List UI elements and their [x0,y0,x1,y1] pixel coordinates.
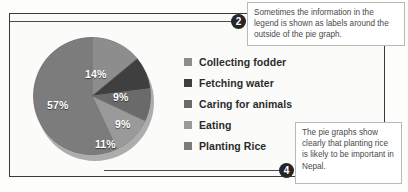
slice-label-caring-for-animals: 9% [115,118,130,130]
legend-item-label: Caring for animals [199,98,292,110]
callout-annotation-2: Sometimes the information in the legend … [247,2,405,46]
callout-4-leader-line [104,170,281,171]
legend-swatch-icon [184,58,192,66]
figure-root: 14% 9% 9% 11% 57% Collecting fodder Fetc… [0,0,408,192]
pie-svg [33,37,151,155]
legend-item-collecting-fodder[interactable]: Collecting fodder [184,51,292,72]
slice-label-eating: 11% [95,138,116,150]
legend-item-label: Planting Rice [199,140,266,152]
legend-item-label: Fetching water [199,77,274,89]
slice-label-planting-rice: 57% [47,99,68,111]
pie-chart: 14% 9% 9% 11% 57% [33,37,154,163]
slice-label-collecting-fodder: 14% [85,68,106,80]
callout-badge-2: 2 [231,14,246,29]
legend-item-eating[interactable]: Eating [184,114,292,135]
legend-swatch-icon [184,79,192,87]
callout-2-leader-line [9,21,233,22]
slice-label-fetching-water: 9% [113,91,128,103]
legend-item-planting-rice[interactable]: Planting Rice [184,135,292,156]
pie-body [33,37,151,155]
callout-annotation-4: The pie graphs show clearly that plantin… [295,122,402,184]
callout-badge-4: 4 [279,163,294,178]
legend-swatch-icon [184,121,192,129]
legend-item-label: Eating [199,119,231,131]
legend-item-caring-for-animals[interactable]: Caring for animals [184,93,292,114]
legend-swatch-icon [184,100,192,108]
legend-swatch-icon [184,142,192,150]
legend-item-label: Collecting fodder [199,56,286,68]
legend-item-fetching-water[interactable]: Fetching water [184,72,292,93]
callout-text: Sometimes the information in the legend … [254,7,399,41]
chart-legend: Collecting fodder Fetching water Caring … [184,51,292,156]
callout-text: The pie graphs show clearly that plantin… [302,127,396,172]
